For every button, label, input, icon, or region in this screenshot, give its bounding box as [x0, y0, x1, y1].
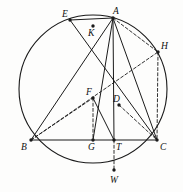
- segment-bf: [31, 98, 93, 140]
- segment-at: [113, 18, 114, 140]
- point-label-g: G: [88, 143, 95, 153]
- point-label-w: W: [110, 176, 118, 186]
- point-label-a: A: [113, 7, 119, 17]
- segment-ab: [31, 18, 113, 140]
- segment-ac: [113, 18, 157, 140]
- segment-ag: [93, 18, 113, 140]
- segment-ah: [113, 18, 158, 52]
- point-label-b: B: [21, 143, 27, 153]
- geometry-figure: EAKHFDBGTCW: [0, 0, 183, 192]
- point-label-k: K: [88, 29, 94, 39]
- segment-dc: [119, 105, 157, 140]
- vertex-dot-w: [112, 168, 115, 171]
- vertex-dot-e: [68, 18, 71, 21]
- point-label-d: D: [113, 95, 120, 105]
- vertex-dot-b: [29, 138, 32, 141]
- point-label-h: H: [161, 42, 168, 52]
- vertex-dot-c: [155, 138, 158, 141]
- vertex-dot-a: [111, 16, 114, 19]
- segment-ea: [70, 18, 113, 20]
- vertex-dot-h: [156, 50, 159, 53]
- segment-hc: [157, 52, 158, 140]
- point-label-c: C: [160, 143, 166, 153]
- point-label-e: E: [62, 10, 68, 20]
- point-label-f: F: [86, 88, 92, 98]
- point-label-t: T: [116, 143, 121, 153]
